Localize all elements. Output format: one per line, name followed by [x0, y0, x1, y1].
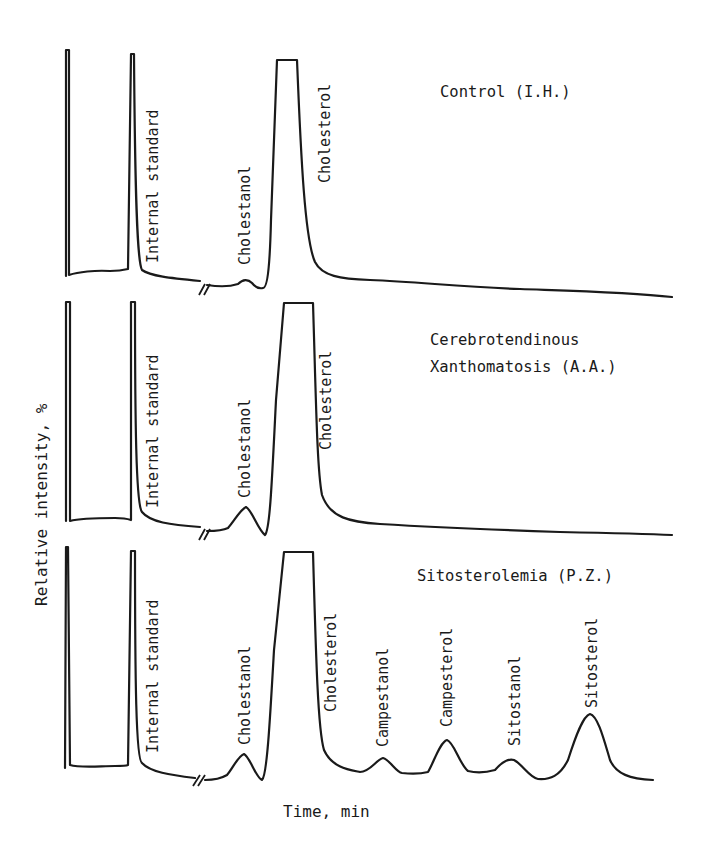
panel-title-control: Control (I.H.): [440, 83, 571, 101]
y-axis-label: Relative intensity, %: [32, 403, 51, 606]
axis-break-icon: [199, 529, 210, 540]
axis-break-icon: [199, 284, 210, 295]
label-cholesterol: Cholesterol: [317, 351, 335, 450]
panel-title-ctx-line1: Cerebrotendinous: [430, 331, 579, 349]
chromatogram-figure: Internal standard Cholestanol Cholestero…: [0, 0, 707, 845]
label-campestanol: Campestanol: [374, 648, 392, 747]
label-campesterol: Campesterol: [438, 628, 456, 727]
panel-ctx: Internal standard Cholestanol Cholestero…: [66, 302, 672, 540]
label-internal-standard: Internal standard: [144, 599, 162, 753]
panel-title-sitosterolemia: Sitosterolemia (P.Z.): [417, 567, 613, 585]
label-cholesterol: Cholesterol: [322, 613, 340, 712]
label-sitosterol: Sitosterol: [583, 618, 601, 708]
x-axis-label: Time, min: [283, 802, 370, 821]
panel-control: Internal standard Cholestanol Cholestero…: [66, 50, 672, 297]
label-internal-standard: Internal standard: [144, 109, 162, 263]
panel-title-ctx-line2: Xanthomatosis (A.A.): [430, 358, 617, 376]
label-cholestanol: Cholestanol: [236, 166, 254, 265]
label-cholestanol: Cholestanol: [236, 399, 254, 498]
label-internal-standard: Internal standard: [144, 354, 162, 508]
axis-break-icon: [193, 775, 205, 786]
label-cholesterol: Cholesterol: [316, 84, 334, 183]
label-cholestanol: Cholestanol: [236, 646, 254, 745]
panel-sitosterolemia: Internal standard Cholestanol Cholestero…: [65, 547, 653, 786]
label-sitostanol: Sitostanol: [506, 656, 524, 746]
